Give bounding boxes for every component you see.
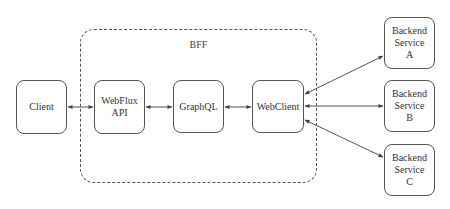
bff-label: BFF <box>81 39 316 50</box>
backend-service-b-node[interactable]: Backend Service B <box>384 80 435 132</box>
webclient-node[interactable]: WebClient <box>252 80 304 133</box>
backend-service-c-label: Backend Service C <box>392 152 427 188</box>
client-label: Client <box>29 101 53 113</box>
backend-service-b-label: Backend Service B <box>392 88 427 124</box>
webflux-api-node[interactable]: WebFlux API <box>94 80 145 134</box>
webclient-label: WebClient <box>257 101 300 113</box>
backend-service-c-node[interactable]: Backend Service C <box>384 144 435 196</box>
graphql-node[interactable]: GraphQL <box>173 80 224 133</box>
webflux-api-label: WebFlux API <box>101 95 137 119</box>
backend-service-a-label: Backend Service A <box>392 25 427 61</box>
client-node[interactable]: Client <box>16 80 67 134</box>
graphql-label: GraphQL <box>179 101 217 113</box>
backend-service-a-node[interactable]: Backend Service A <box>384 17 435 69</box>
